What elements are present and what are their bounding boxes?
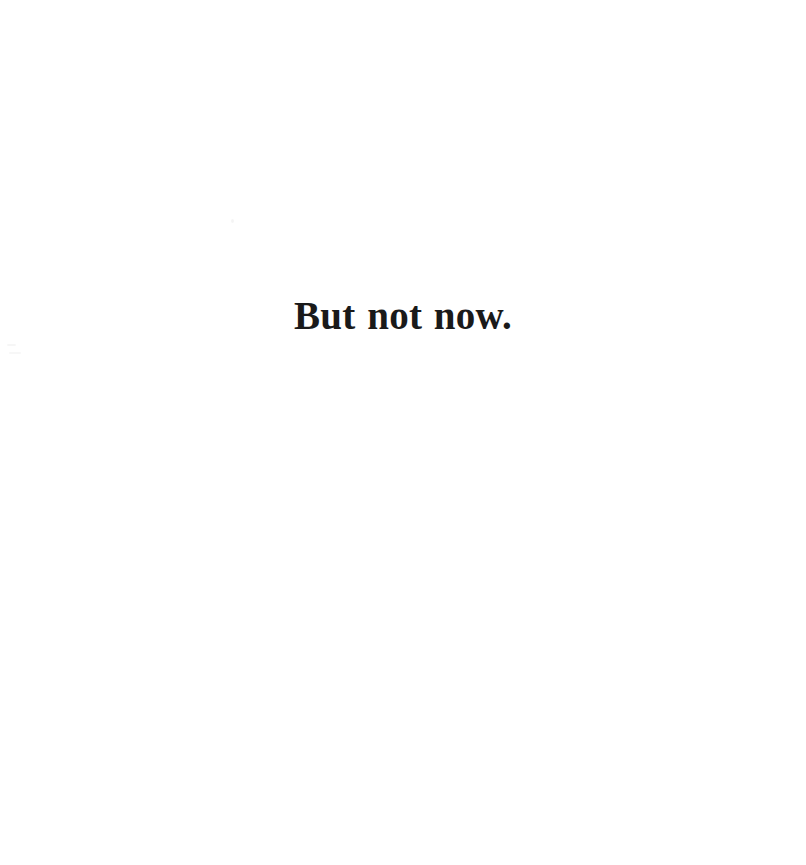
- page-text-block: But not now.: [0, 0, 806, 865]
- body-text-line: But not now.: [0, 294, 806, 338]
- scanned-page: But not now.: [0, 0, 806, 865]
